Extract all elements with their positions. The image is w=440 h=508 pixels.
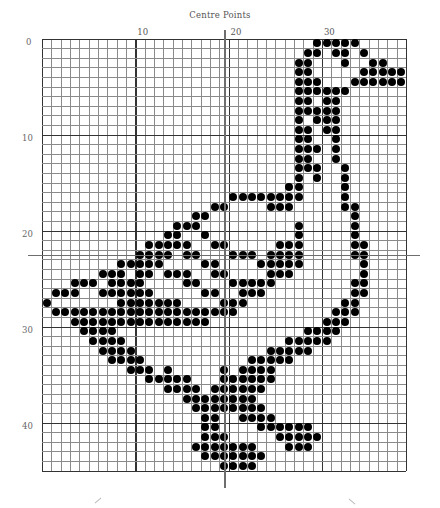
stitch-dot: [71, 289, 79, 297]
stitch-dot: [127, 366, 135, 374]
stitch-dot: [99, 337, 107, 345]
stitch-dot: [201, 414, 209, 422]
stitch-dot: [89, 337, 97, 345]
stitch-dot: [155, 260, 163, 268]
stitch-dot: [295, 193, 303, 201]
stitch-dot: [99, 347, 107, 355]
stitch-dot: [164, 375, 172, 383]
stitch-dot: [267, 193, 275, 201]
column-label: 30: [324, 27, 335, 37]
stitch-dot: [145, 241, 153, 249]
stitch-dot: [164, 241, 172, 249]
stitch-dot: [229, 385, 237, 393]
stitch-dot: [229, 462, 237, 470]
stitch-dot: [360, 241, 368, 249]
stitch-dot: [304, 68, 312, 76]
stitch-dot: [89, 308, 97, 316]
stitch-dot: [323, 39, 331, 47]
stitch-dot: [127, 289, 135, 297]
stitch-dot: [183, 318, 191, 326]
stitch-dot: [332, 39, 340, 47]
stitch-dot: [80, 318, 88, 326]
stitch-dot: [201, 308, 209, 316]
stitch-dot: [257, 385, 265, 393]
stitch-dot: [313, 174, 321, 182]
stitch-dot: [239, 462, 247, 470]
stitch-dot: [117, 318, 125, 326]
stitch-dot: [127, 356, 135, 364]
stitch-dot: [276, 433, 284, 441]
stitch-dot: [285, 356, 293, 364]
stitch-dot: [295, 241, 303, 249]
stitch-dot: [295, 126, 303, 134]
stitch-dot: [397, 68, 405, 76]
stitch-dot: [323, 337, 331, 345]
stitch-dot: [313, 107, 321, 115]
stitch-dot: [257, 356, 265, 364]
stitch-dot: [257, 279, 265, 287]
stitch-dot: [285, 433, 293, 441]
stitch-dot: [295, 145, 303, 153]
stitch-dot: [248, 385, 256, 393]
stitch-dot: [295, 260, 303, 268]
stitch-dot: [127, 318, 135, 326]
stitch-dot: [267, 270, 275, 278]
stitch-dot: [164, 366, 172, 374]
stitch-dot: [248, 356, 256, 364]
stitch-dot: [351, 279, 359, 287]
stitch-dot: [276, 423, 284, 431]
stitch-dot: [332, 318, 340, 326]
stitch-dot: [304, 126, 312, 134]
stitch-dot: [313, 78, 321, 86]
stitch-dot: [201, 452, 209, 460]
stitch-dot: [341, 308, 349, 316]
stitch-dot: [323, 318, 331, 326]
stitch-dot: [360, 78, 368, 86]
stitch-dot: [360, 260, 368, 268]
stitch-dot: [285, 347, 293, 355]
stitch-dot: [341, 183, 349, 191]
stitch-dot: [229, 452, 237, 460]
stitch-dot: [313, 145, 321, 153]
stitch-dot: [332, 49, 340, 57]
stitch-dot: [304, 327, 312, 335]
stitch-dot: [341, 174, 349, 182]
stitch-dot: [52, 289, 60, 297]
stitch-dot: [201, 395, 209, 403]
stitch-dot: [155, 318, 163, 326]
stitch-dot: [313, 116, 321, 124]
stitch-dot: [239, 299, 247, 307]
stitch-dot: [117, 347, 125, 355]
stitch-dot: [108, 279, 116, 287]
stitch-dot: [304, 78, 312, 86]
stitch-dot: [285, 203, 293, 211]
stitch-dot: [341, 299, 349, 307]
stitch-dot: [117, 308, 125, 316]
stitch-dot: [136, 366, 144, 374]
stitch-dot: [211, 452, 219, 460]
stitch-dot: [332, 135, 340, 143]
stitch-dot: [304, 135, 312, 143]
stitch-dot: [248, 395, 256, 403]
stitch-dot: [295, 59, 303, 67]
stitch-dot: [99, 270, 107, 278]
stitch-dot: [295, 183, 303, 191]
stitch-dot: [211, 270, 219, 278]
stitch-dot: [248, 279, 256, 287]
stitch-dot: [313, 433, 321, 441]
stitch-dot: [304, 49, 312, 57]
stitch-dot: [192, 443, 200, 451]
stitch-dot: [201, 231, 209, 239]
stitch-dot: [360, 68, 368, 76]
stitch-dot: [201, 443, 209, 451]
stitch-dot: [304, 347, 312, 355]
stitch-dot: [99, 318, 107, 326]
stitch-dot: [108, 318, 116, 326]
stitch-dot: [332, 107, 340, 115]
stitch-dot: [332, 126, 340, 134]
stitch-dot: [229, 443, 237, 451]
stitch-dot: [239, 375, 247, 383]
stitch-dot: [239, 385, 247, 393]
stitch-dot: [183, 279, 191, 287]
stitch-dot: [173, 318, 181, 326]
